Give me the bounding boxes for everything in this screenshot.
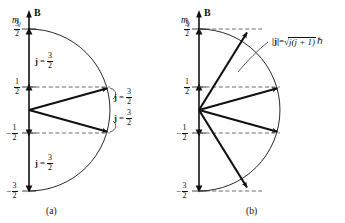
annotation-a-j-upper: j = 3 2 bbox=[114, 89, 132, 107]
frac-1over2-b: 1 2 bbox=[184, 78, 190, 96]
tick-label-b-1over2: 1 2 bbox=[184, 79, 190, 97]
tick-label-b-minus3over2: − 3 2 bbox=[176, 183, 188, 201]
tick-marker-b-minus3over2 bbox=[196, 186, 203, 193]
axis-arrowhead-a bbox=[26, 10, 32, 18]
formula-sqrt-group: √j(j + 1) bbox=[284, 37, 316, 47]
axis-arrowhead-b bbox=[196, 10, 202, 18]
tick-label-b-3over2: 3 2 bbox=[184, 21, 190, 39]
caption-panel-b: (b) bbox=[246, 206, 257, 216]
frac-3over2-b-neg: 3 2 bbox=[182, 182, 188, 200]
tick-label-b-minus1over2: − 1 2 bbox=[176, 125, 188, 143]
tick-label-a-minus3over2: − 3 2 bbox=[6, 183, 18, 201]
tick-marker-a-3over2 bbox=[26, 28, 33, 35]
annotation-b-magnitude-formula: |j|=√j(j + 1) ℏ bbox=[272, 37, 323, 47]
leader-b-formula bbox=[238, 42, 268, 72]
frac-3over2-b: 3 2 bbox=[184, 20, 190, 38]
frac-1over2-b-neg: 1 2 bbox=[182, 124, 188, 142]
tick-marker-b-3over2 bbox=[196, 28, 203, 35]
formula-hbar: ℏ bbox=[317, 36, 323, 46]
panel-b: B mj 3 2 1 2 − 1 2 − 3 bbox=[172, 0, 345, 223]
field-label-a: B bbox=[34, 8, 41, 18]
tick-label-a-minus1over2: − 1 2 bbox=[6, 125, 18, 143]
frac-3over2-a-neg: 3 2 bbox=[12, 182, 18, 200]
panel-b-drawing bbox=[172, 0, 345, 223]
frac-3over2-a: 3 2 bbox=[14, 20, 20, 38]
figure-root: B mj 3 2 1 2 − 1 2 − 3 bbox=[0, 0, 345, 223]
annotation-a-j-top: j = 3 2 bbox=[35, 53, 53, 71]
formula-radicand: j(j + 1) bbox=[288, 37, 316, 47]
frac-annot-a-bottom: 3 2 bbox=[47, 154, 53, 172]
vector-a-mj-minus-one-half bbox=[29, 110, 108, 132]
annotation-a-j-lower: j = 3 2 bbox=[114, 110, 132, 128]
tick-label-a-1over2: 1 2 bbox=[14, 79, 20, 97]
frac-annot-a-lower: 3 2 bbox=[126, 109, 132, 127]
panel-a-drawing bbox=[0, 0, 172, 223]
frac-1over2-a-neg: 1 2 bbox=[12, 124, 18, 142]
field-label-b: B bbox=[204, 8, 211, 18]
tick-label-a-3over2: 3 2 bbox=[14, 21, 20, 39]
annotation-a-j-bottom: j = 3 2 bbox=[35, 155, 53, 173]
formula-lhs: |j| bbox=[272, 36, 279, 46]
caption-panel-a: (a) bbox=[46, 206, 57, 216]
tick-marker-a-minus3over2 bbox=[26, 186, 33, 193]
panel-a: B mj 3 2 1 2 − 1 2 − 3 bbox=[0, 0, 172, 223]
semicircle-b bbox=[199, 29, 280, 191]
frac-annot-a-top: 3 2 bbox=[47, 52, 53, 70]
vector-a-mj-plus-one-half bbox=[29, 88, 108, 110]
frac-1over2-a: 1 2 bbox=[14, 78, 20, 96]
frac-annot-a-upper: 3 2 bbox=[126, 88, 132, 106]
